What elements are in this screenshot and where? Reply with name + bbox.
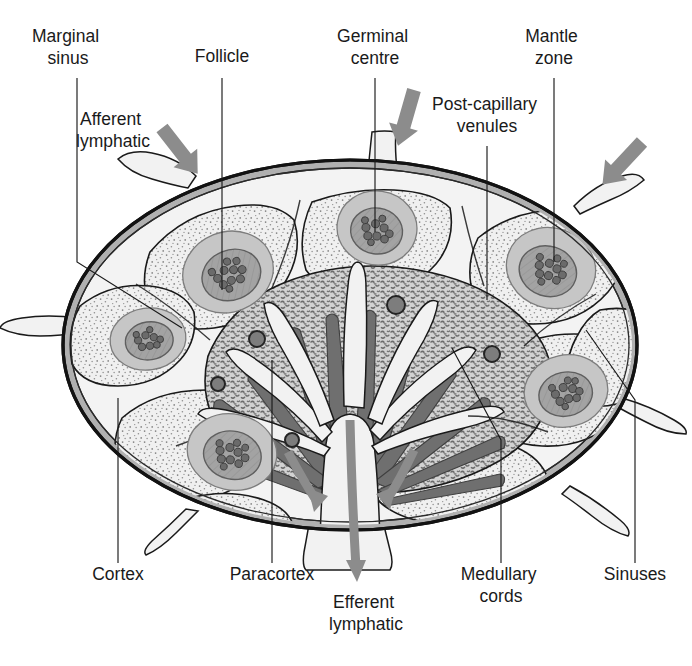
label-follicle: Follicle bbox=[195, 46, 249, 66]
label-line: Marginal bbox=[32, 26, 99, 46]
afferent-vessel-bottomright bbox=[562, 486, 629, 536]
post-capillary-venule bbox=[249, 331, 265, 347]
label-line: centre bbox=[351, 48, 400, 68]
afferent-vessel-right bbox=[616, 398, 686, 434]
label-line: Paracortex bbox=[230, 564, 315, 584]
post-capillary-venule bbox=[211, 377, 225, 391]
efferent-arrow-main-head bbox=[346, 560, 366, 582]
efferent-arrow-main-stem bbox=[350, 420, 356, 568]
label-paracortex: Paracortex bbox=[230, 564, 315, 584]
label-line: lymphatic bbox=[76, 131, 150, 151]
label-efferent-lymphatic: Efferent lymphatic bbox=[329, 592, 403, 634]
label-line: Germinal bbox=[337, 26, 408, 46]
label-cortex: Cortex bbox=[92, 564, 144, 584]
label-line: Sinuses bbox=[604, 564, 667, 584]
lymph-node-diagram: Marginal sinus Follicle Germinal centre … bbox=[0, 0, 692, 666]
label-medullary-cords: Medullary cords bbox=[461, 564, 542, 606]
post-capillary-venule bbox=[387, 296, 405, 314]
post-capillary-venule bbox=[484, 346, 500, 362]
label-line: sinus bbox=[48, 48, 89, 68]
afferent-vessel-bottomleft bbox=[145, 509, 198, 555]
label-line: cords bbox=[480, 586, 523, 606]
lymph-node-figure: Marginal sinus Follicle Germinal centre … bbox=[0, 0, 692, 666]
label-line: Post-capillary bbox=[432, 94, 537, 114]
label-line: Mantle bbox=[525, 26, 578, 46]
label-germinal-centre: Germinal centre bbox=[337, 26, 413, 68]
label-line: zone bbox=[535, 48, 573, 68]
label-line: Follicle bbox=[195, 46, 249, 66]
label-line: lymphatic bbox=[329, 614, 403, 634]
label-line: venules bbox=[457, 116, 518, 136]
label-line: Efferent bbox=[333, 592, 394, 612]
label-post-capillary-venules: Post-capillary venules bbox=[432, 94, 542, 136]
label-marginal-sinus: Marginal sinus bbox=[32, 26, 104, 68]
post-capillary-venule bbox=[285, 433, 299, 447]
label-line: Afferent bbox=[80, 109, 141, 129]
label-afferent-lymphatic: Afferent lymphatic bbox=[76, 109, 150, 151]
label-line: Medullary bbox=[461, 564, 537, 584]
label-mantle-zone: Mantle zone bbox=[525, 26, 582, 68]
label-sinuses: Sinuses bbox=[604, 564, 667, 584]
label-line: Cortex bbox=[92, 564, 144, 584]
